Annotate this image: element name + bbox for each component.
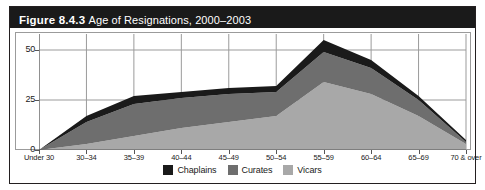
legend-swatch-curates [228, 165, 238, 175]
legend-item: Curates [228, 165, 273, 175]
legend-label: Curates [242, 165, 273, 175]
x-tick-mark [276, 150, 277, 154]
legend-swatch-vicars [283, 165, 293, 175]
x-tick-mark [134, 150, 135, 154]
stacked-area-chart [39, 34, 467, 150]
x-tick-mark [419, 150, 420, 154]
legend-swatch-chaplains [163, 165, 173, 175]
x-tick-mark [39, 150, 40, 154]
figure-title-bar: Figure 8.4.3 Age of Resignations, 2000–2… [10, 7, 475, 28]
chart-legend: ChaplainsCuratesVicars [10, 165, 475, 175]
legend-item: Chaplains [163, 165, 216, 175]
y-tick-label: 25 [13, 94, 35, 104]
x-tick-label: 70 & over [438, 153, 485, 162]
figure-number: Figure 8.4.3 [19, 14, 85, 26]
x-tick-mark [229, 150, 230, 154]
legend-label: Chaplains [177, 165, 216, 175]
y-tick-label: 50 [13, 44, 35, 54]
figure-caption-text: Age of Resignations, 2000–2003 [88, 14, 251, 26]
plot-area [39, 34, 467, 150]
legend-item: Vicars [283, 165, 321, 175]
x-tick-mark [181, 150, 182, 154]
x-tick-mark [324, 150, 325, 154]
x-tick-mark [371, 150, 372, 154]
x-tick-mark [466, 150, 467, 154]
legend-label: Vicars [297, 165, 321, 175]
figure-container: Figure 8.4.3 Age of Resignations, 2000–2… [9, 6, 476, 184]
x-tick-mark [86, 150, 87, 154]
